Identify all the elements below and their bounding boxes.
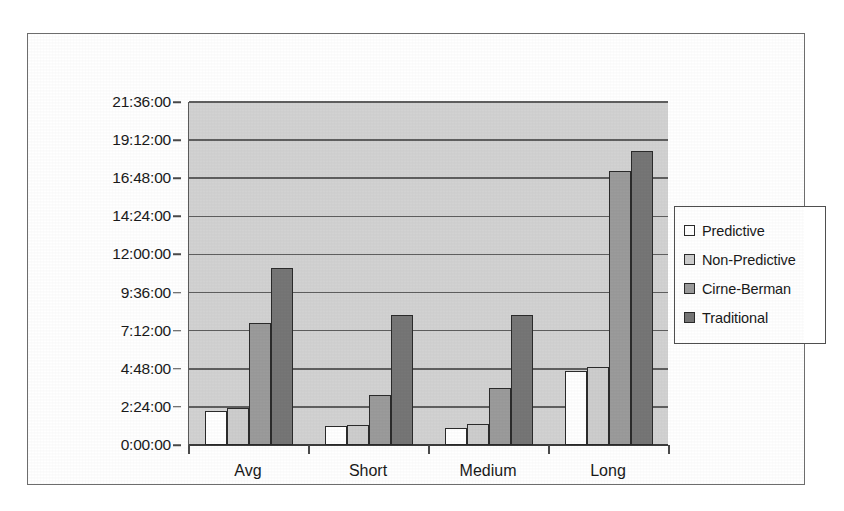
- y-axis-tick-mark: [173, 139, 181, 141]
- legend-item-label: Predictive: [702, 223, 765, 239]
- legend-swatch-icon: [684, 283, 695, 294]
- bar-group-medium: [429, 102, 549, 445]
- bar-medium-non-predictive: [467, 424, 489, 445]
- plot-area: [188, 102, 668, 445]
- x-axis-tick-mark: [308, 445, 310, 454]
- x-axis-category-label-avg: Avg: [234, 462, 261, 480]
- y-axis-tick-label: 9:36:00: [121, 284, 171, 302]
- y-axis-tick-mark: [173, 216, 181, 218]
- bar-short-non-predictive: [347, 425, 369, 445]
- legend-item-label: Cirne-Berman: [702, 281, 791, 297]
- y-axis-tick-mark: [173, 368, 181, 370]
- y-axis-tick-mark: [173, 444, 181, 446]
- legend-swatch-icon: [684, 225, 695, 236]
- y-axis-tick-mark: [173, 254, 181, 256]
- y-axis-tick-label: 16:48:00: [112, 169, 171, 187]
- bar-group-short: [309, 102, 429, 445]
- bar-short-cirne-berman: [369, 395, 391, 445]
- x-axis-tick-mark: [668, 445, 670, 454]
- legend-item-label: Traditional: [702, 310, 768, 326]
- bars-layer: [189, 102, 668, 445]
- y-axis-tick-label: 2:24:00: [121, 398, 171, 416]
- chart-figure-frame: 0:00:002:24:004:48:007:12:009:36:0012:00…: [27, 33, 805, 485]
- legend-swatch-icon: [684, 312, 695, 323]
- y-axis-tick-mark: [173, 101, 181, 103]
- bar-medium-traditional: [511, 315, 533, 445]
- y-axis-tick-label: 0:00:00: [121, 436, 171, 454]
- x-axis-category-label-long: Long: [590, 462, 626, 480]
- y-axis-tick-label: 21:36:00: [112, 93, 171, 111]
- bar-group-long: [549, 102, 669, 445]
- x-axis-category-label-short: Short: [349, 462, 387, 480]
- legend-item-predictive: Predictive: [684, 216, 825, 245]
- bar-avg-predictive: [205, 411, 227, 445]
- legend-item-cirne-berman: Cirne-Berman: [684, 274, 825, 303]
- y-axis-tick-mark: [173, 177, 181, 179]
- chart-legend: PredictiveNon-PredictiveCirne-BermanTrad…: [674, 206, 826, 344]
- bar-avg-cirne-berman: [249, 323, 271, 445]
- legend-item-non-predictive: Non-Predictive: [684, 245, 825, 274]
- legend-item-traditional: Traditional: [684, 303, 825, 332]
- bar-long-traditional: [631, 151, 653, 445]
- y-axis-tick-label: 12:00:00: [112, 245, 171, 263]
- bar-long-predictive: [565, 371, 587, 445]
- bar-short-traditional: [391, 315, 413, 445]
- bar-avg-non-predictive: [227, 408, 249, 445]
- legend-swatch-icon: [684, 254, 695, 265]
- bar-group-avg: [189, 102, 309, 445]
- x-axis-tick-mark: [188, 445, 190, 454]
- legend-item-label: Non-Predictive: [702, 252, 796, 268]
- bar-medium-cirne-berman: [489, 388, 511, 445]
- y-axis-tick-label: 7:12:00: [121, 322, 171, 340]
- y-axis: 0:00:002:24:004:48:007:12:009:36:0012:00…: [83, 102, 181, 445]
- bar-avg-traditional: [271, 268, 293, 445]
- y-axis-tick-label: 14:24:00: [112, 207, 171, 225]
- bar-short-predictive: [325, 426, 347, 445]
- y-axis-tick-mark: [173, 330, 181, 332]
- y-axis-tick-label: 4:48:00: [121, 360, 171, 378]
- x-axis-tick-mark: [428, 445, 430, 454]
- x-axis-category-label-medium: Medium: [460, 462, 517, 480]
- x-axis-tick-mark: [548, 445, 550, 454]
- bar-long-non-predictive: [587, 367, 609, 445]
- bar-long-cirne-berman: [609, 171, 631, 445]
- bar-medium-predictive: [445, 428, 467, 445]
- y-axis-tick-mark: [173, 406, 181, 408]
- y-axis-tick-mark: [173, 292, 181, 294]
- y-axis-tick-label: 19:12:00: [112, 131, 171, 149]
